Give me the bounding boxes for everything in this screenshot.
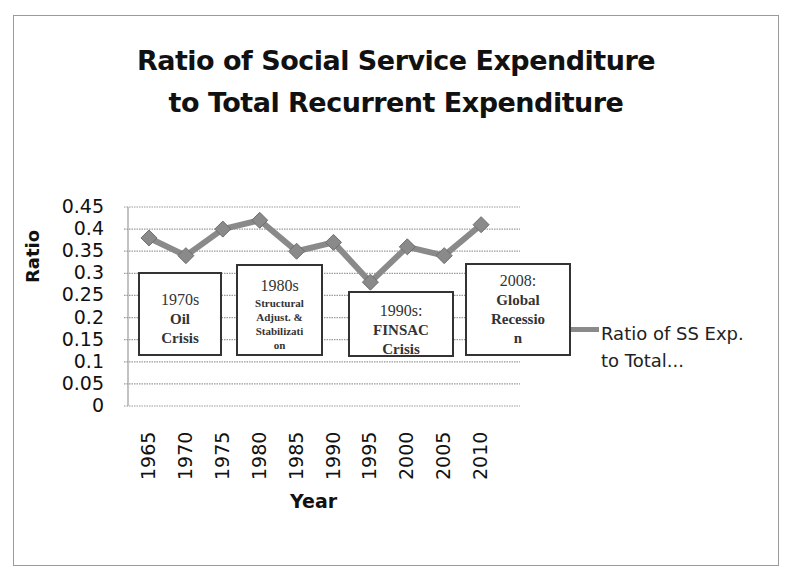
legend-label-line-2: to Total... — [573, 347, 744, 374]
annotation-1970s-oil-crisis: 1970s Oil Crisis — [138, 272, 222, 356]
legend-label-line-1: Ratio of SS Exp. — [573, 320, 744, 347]
legend: Ratio of SS Exp. to Total... — [573, 320, 744, 374]
annotation-1990s-finsac-crisis: 1990s: FINSAC Crisis — [348, 291, 454, 357]
annotation-1980s-structural-adjustment: 1980s Structural Adjust. & Stabilizati o… — [236, 264, 323, 356]
annotation-2008-global-recession: 2008: Global Recessio n — [465, 263, 571, 356]
